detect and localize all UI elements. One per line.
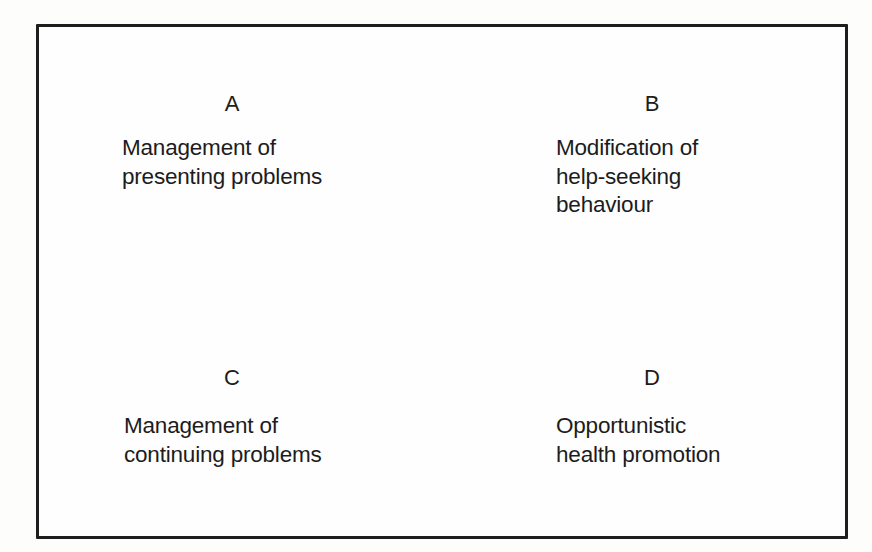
quadrant-b-line-2: help-seeking	[556, 163, 698, 192]
quadrant-b-description: Modification of help-seeking behaviour	[556, 134, 698, 220]
quadrant-b-line-1: Modification of	[556, 134, 698, 163]
quadrant-a-description: Management of presenting problems	[122, 134, 322, 191]
quadrant-c-description: Management of continuing problems	[124, 412, 322, 469]
quadrant-d-description: Opportunistic health promotion	[556, 412, 720, 469]
quadrant-d-line-1: Opportunistic	[556, 412, 720, 441]
quadrant-a-line-2: presenting problems	[122, 163, 322, 192]
quadrant-a-line-1: Management of	[122, 134, 322, 163]
quadrant-d-letter: D	[632, 367, 672, 389]
quadrant-d-line-2: health promotion	[556, 441, 720, 470]
quadrant-a-letter: A	[212, 93, 252, 115]
quadrant-c-line-1: Management of	[124, 412, 322, 441]
quadrant-b-letter: B	[632, 93, 672, 115]
quadrant-c-letter: C	[212, 367, 252, 389]
quadrant-c-line-2: continuing problems	[124, 441, 322, 470]
quadrant-b-line-3: behaviour	[556, 191, 698, 220]
